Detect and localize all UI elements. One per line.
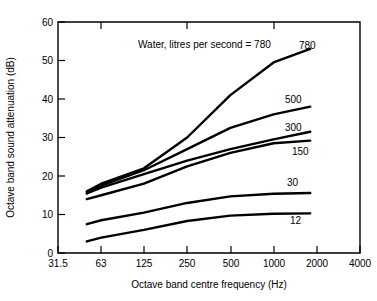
- y-tick-label: 60: [42, 17, 54, 28]
- y-axis-title: Octave band sound attenuation (dB): [5, 57, 16, 218]
- series-label-150: 150: [292, 146, 309, 157]
- x-tick-label: 500: [223, 258, 240, 269]
- y-tick-label: 50: [42, 55, 54, 66]
- series-label-12: 12: [290, 215, 302, 226]
- y-tick-label: 10: [42, 209, 54, 220]
- series-label-300: 300: [285, 122, 302, 133]
- y-tick-label: 20: [42, 171, 54, 182]
- x-axis-tick-labels: 31.5 63 125 250 500 1000 2000 4000: [48, 258, 371, 269]
- y-tick-label: 30: [42, 132, 54, 143]
- x-tick-label: 63: [95, 258, 107, 269]
- x-axis-title: Octave band centre frequency (Hz): [131, 279, 287, 290]
- series-annotation: Water, litres per second = 780: [138, 39, 271, 50]
- series-label-500: 500: [285, 94, 302, 105]
- x-tick-label: 250: [179, 258, 196, 269]
- y-tick-label: 0: [47, 248, 53, 259]
- x-tick-label: 125: [136, 258, 153, 269]
- x-tick-label: 1000: [263, 258, 286, 269]
- x-tick-label: 2000: [306, 258, 329, 269]
- chart-svg: 0 10 20 30 40 50 60 31.5 63 125: [0, 0, 377, 301]
- chart-figure: 0 10 20 30 40 50 60 31.5 63 125: [0, 0, 377, 301]
- series-label-780: 780: [299, 40, 316, 51]
- y-tick-label: 40: [42, 94, 54, 105]
- series-label-30: 30: [287, 177, 299, 188]
- x-tick-label: 31.5: [48, 258, 68, 269]
- x-tick-label: 4000: [349, 258, 372, 269]
- y-axis-tick-labels: 0 10 20 30 40 50 60: [42, 17, 54, 259]
